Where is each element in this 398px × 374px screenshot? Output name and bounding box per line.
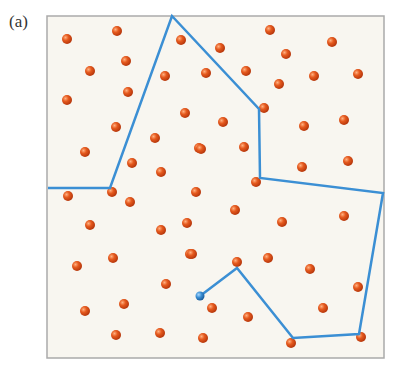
particle — [80, 306, 90, 316]
particle — [353, 69, 363, 79]
particle — [286, 338, 296, 348]
particle — [72, 261, 82, 271]
random-walk-diagram — [0, 0, 398, 374]
particle — [176, 35, 186, 45]
particle — [111, 122, 121, 132]
particle — [187, 249, 197, 259]
particle — [218, 117, 228, 127]
particle — [339, 115, 349, 125]
particle — [127, 158, 137, 168]
particle — [180, 108, 190, 118]
particle — [191, 187, 201, 197]
particle — [119, 299, 129, 309]
particle — [277, 217, 287, 227]
particle — [112, 26, 122, 36]
particle — [85, 66, 95, 76]
particle — [259, 103, 269, 113]
particle — [155, 328, 165, 338]
particle — [125, 197, 135, 207]
particle — [196, 144, 206, 154]
particle — [339, 211, 349, 221]
particle — [62, 95, 72, 105]
particle — [305, 264, 315, 274]
path-end-particle — [196, 292, 205, 301]
particle — [207, 303, 217, 313]
particle — [343, 156, 353, 166]
particle — [318, 303, 328, 313]
particle — [123, 87, 133, 97]
particle — [232, 257, 242, 267]
particle — [62, 34, 72, 44]
particle — [230, 205, 240, 215]
particle — [281, 49, 291, 59]
particle — [160, 71, 170, 81]
particle — [150, 133, 160, 143]
particle — [239, 142, 249, 152]
particle — [63, 191, 73, 201]
particle — [299, 121, 309, 131]
particle — [297, 162, 307, 172]
particle — [215, 43, 225, 53]
particle — [265, 25, 275, 35]
particle — [156, 225, 166, 235]
particle — [161, 279, 171, 289]
particle — [353, 282, 363, 292]
particle — [263, 253, 273, 263]
particle — [111, 330, 121, 340]
particle — [198, 333, 208, 343]
particle — [108, 253, 118, 263]
particle — [327, 37, 337, 47]
particle — [241, 66, 251, 76]
particle — [274, 79, 284, 89]
particle — [156, 167, 166, 177]
particle — [243, 312, 253, 322]
particle — [201, 68, 211, 78]
particle — [121, 56, 131, 66]
particle — [182, 218, 192, 228]
particle — [80, 147, 90, 157]
particle — [85, 220, 95, 230]
particle — [309, 71, 319, 81]
